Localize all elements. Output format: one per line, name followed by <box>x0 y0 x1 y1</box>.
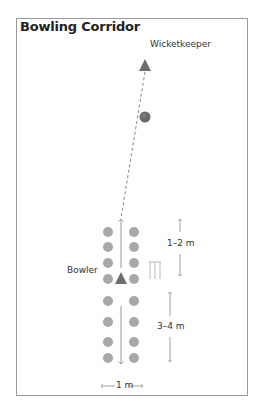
cone-icon <box>129 227 139 237</box>
bowler-icon <box>115 272 127 284</box>
wicketkeeper-label: Wicketkeeper <box>150 39 211 49</box>
cone-icon <box>103 337 113 347</box>
cone-icon <box>103 227 113 237</box>
cone-icon <box>103 274 113 284</box>
stumps-icon <box>149 262 161 279</box>
wicketkeeper-icon <box>139 59 151 71</box>
cone-icon <box>103 296 113 306</box>
ball-path-dashed-line <box>121 72 145 218</box>
cone-icon <box>103 258 113 268</box>
width-distance-label: 1 m <box>116 380 133 390</box>
ball-highlight <box>142 113 147 118</box>
cone-icon <box>129 317 139 327</box>
cone-icon <box>103 242 113 252</box>
runup-distance-label: 3–4 m <box>157 321 185 331</box>
cone-icon <box>129 242 139 252</box>
cone-icon <box>129 296 139 306</box>
cone-icon <box>129 274 139 284</box>
cone-icon <box>103 317 113 327</box>
bowler-label: Bowler <box>67 265 98 275</box>
cone-icon <box>129 337 139 347</box>
cone-icon <box>103 353 113 363</box>
gap-distance-label: 1–2 m <box>167 238 195 248</box>
cone-icon <box>129 353 139 363</box>
corridor-diagram <box>0 0 260 416</box>
cone-icon <box>129 258 139 268</box>
